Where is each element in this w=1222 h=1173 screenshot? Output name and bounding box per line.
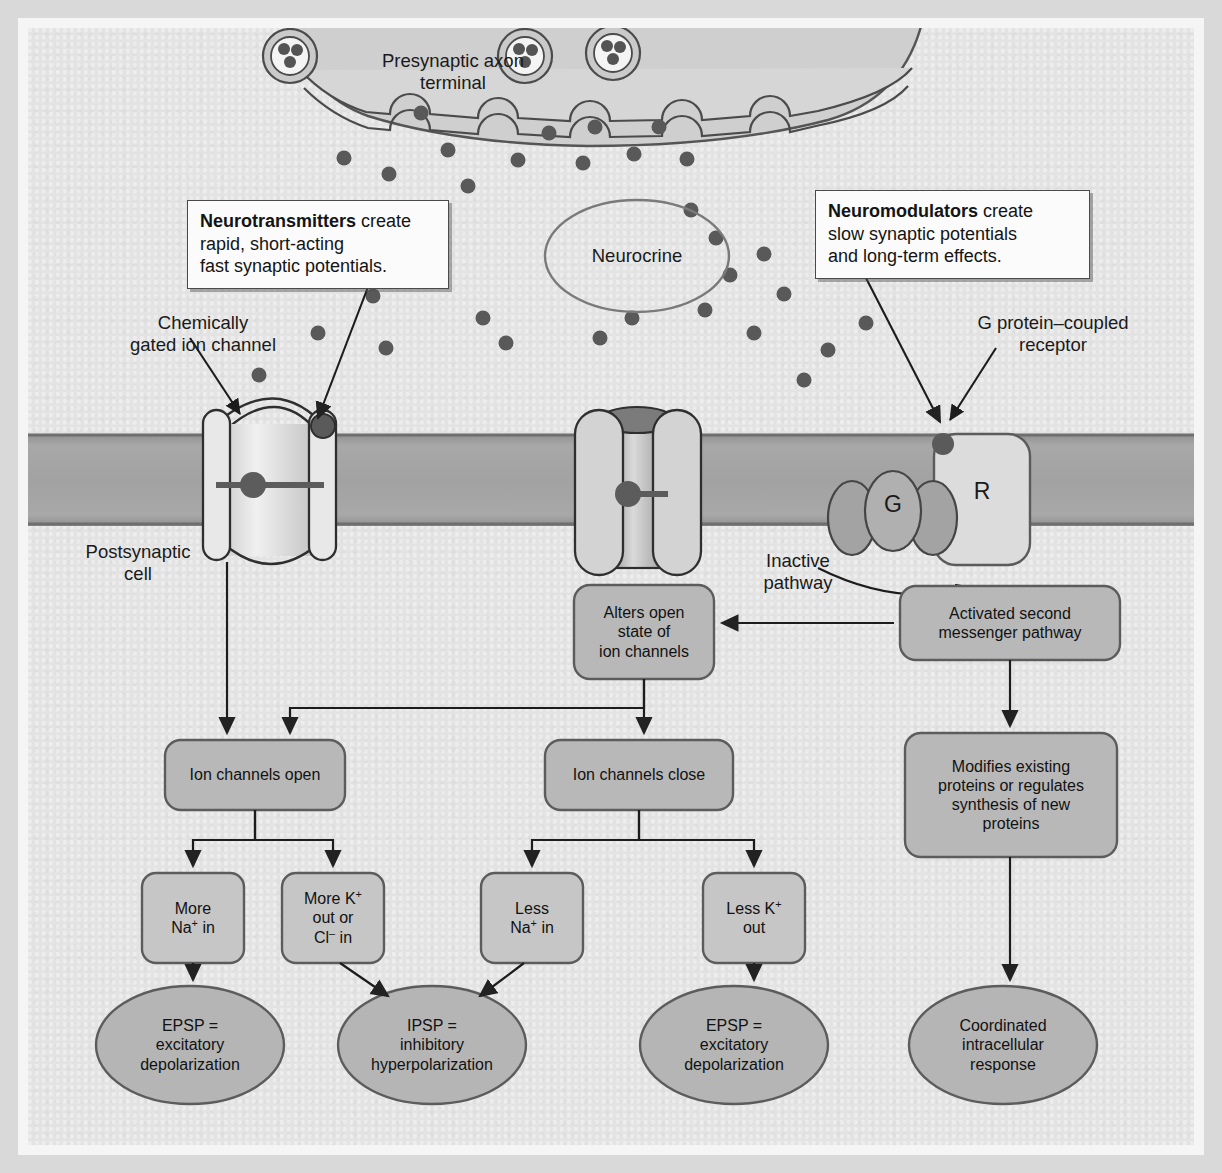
center-ion-channel-graphic [575, 407, 701, 575]
figure-page: Presynaptic axon terminal Neurocrine Neu… [0, 0, 1222, 1173]
callout-neurotransmitters: Neurotransmitters create rapid, short-ac… [187, 200, 449, 289]
label-gprotein-symbol: G [871, 491, 915, 518]
label-gpcr-line1: G protein–coupled [928, 312, 1178, 334]
chemically-gated-ion-channel-graphic [203, 398, 336, 564]
box-ion-channels-open [165, 740, 345, 810]
oval-epsp-left [96, 986, 284, 1104]
bound-ligand-right [932, 433, 954, 455]
box-more-k-out-or-cl-in [282, 873, 384, 963]
callout-neurotransmitters-line2: rapid, short-acting [200, 233, 436, 256]
callout-neurotransmitters-bold: Neurotransmitters [200, 211, 356, 231]
callout-neuromodulators-line1: Neuromodulators create [828, 200, 1077, 223]
callout-neuromodulators-line3: and long-term effects. [828, 245, 1077, 268]
callout-neuromodulators-rest: create [978, 201, 1033, 221]
label-presynaptic-terminal: Presynaptic axon terminal [338, 50, 568, 94]
label-presynaptic-line2: terminal [338, 72, 568, 94]
oval-epsp-right [640, 986, 828, 1104]
box-more-na-in [142, 873, 244, 963]
callout-neuromodulators: Neuromodulators create slow synaptic pot… [815, 190, 1090, 279]
label-inactive-pathway: Inactive pathway [730, 550, 866, 594]
flow-shapes [96, 585, 1120, 1104]
label-chemically-gated-line1: Chemically [88, 312, 318, 334]
box-alters-open-state [574, 585, 714, 679]
gprotein-symbol-text: G [884, 491, 902, 517]
label-presynaptic-line1: Presynaptic axon [338, 50, 568, 72]
label-gpcr-line2: receptor [928, 334, 1178, 356]
oval-ipsp [338, 986, 526, 1104]
callout-neurotransmitters-line3: fast synaptic potentials. [200, 255, 436, 278]
label-neurocrine-text: Neurocrine [592, 245, 683, 266]
box-ion-channels-close [545, 740, 733, 810]
callout-neurotransmitters-rest: create [356, 211, 411, 231]
label-postsynaptic-line2: cell [53, 563, 223, 585]
box-activated-second-messenger [900, 586, 1120, 660]
oval-coordinated-response [909, 986, 1097, 1104]
box-less-k-out [703, 873, 805, 963]
label-receptor-symbol: R [960, 478, 1004, 505]
label-gpcr: G protein–coupled receptor [928, 312, 1178, 356]
receptor-symbol-text: R [974, 478, 991, 504]
label-chemically-gated-ion-channel: Chemically gated ion channel [88, 312, 318, 356]
callout-neuromodulators-bold: Neuromodulators [828, 201, 978, 221]
label-postsynaptic-line1: Postsynaptic [53, 541, 223, 563]
label-neurocrine: Neurocrine [547, 245, 727, 267]
bound-ligand-left [311, 414, 335, 438]
box-less-na-in [481, 873, 583, 963]
label-postsynaptic-cell: Postsynaptic cell [53, 541, 223, 585]
callout-neuromodulators-line2: slow synaptic potentials [828, 223, 1077, 246]
figure-canvas: Presynaptic axon terminal Neurocrine Neu… [28, 28, 1194, 1145]
label-chemically-gated-line2: gated ion channel [88, 334, 318, 356]
label-inactive-line2: pathway [730, 572, 866, 594]
callout-neurotransmitters-line1: Neurotransmitters create [200, 210, 436, 233]
box-modifies-proteins [905, 733, 1117, 857]
label-inactive-line1: Inactive [730, 550, 866, 572]
